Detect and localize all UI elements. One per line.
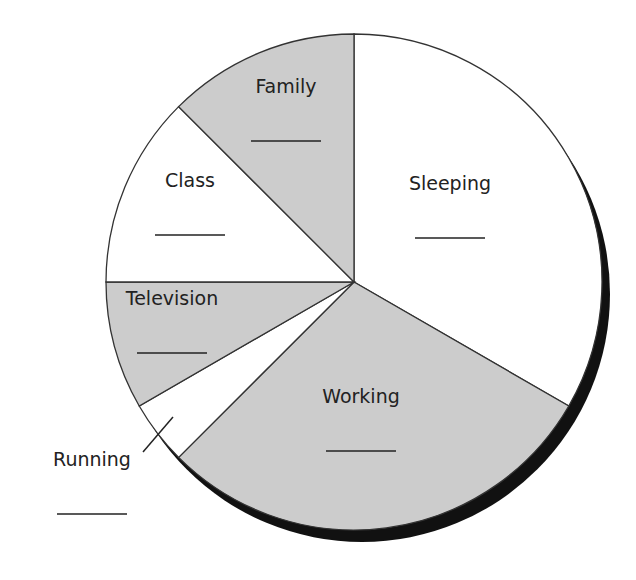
slice-label-television: Television xyxy=(125,287,218,309)
slice-label-family: Family xyxy=(255,75,316,97)
slice-label-running: Running xyxy=(53,448,131,470)
slice-label-sleeping: Sleeping xyxy=(409,172,491,194)
slice-label-working: Working xyxy=(322,385,400,407)
pie-chart: SleepingWorkingRunningTelevisionClassFam… xyxy=(0,0,636,580)
slice-label-class: Class xyxy=(165,169,215,191)
